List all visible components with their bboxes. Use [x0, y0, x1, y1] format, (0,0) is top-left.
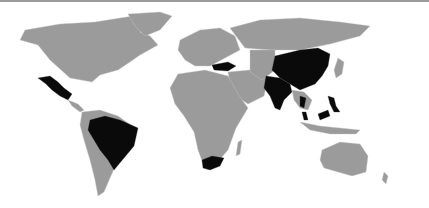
world-map [0, 0, 429, 208]
land-europe [178, 28, 240, 66]
land-russia [230, 18, 370, 50]
land-japan [334, 58, 344, 78]
land-new-zealand [382, 172, 388, 184]
country-philippines[interactable] [328, 96, 340, 112]
country-turkey[interactable] [212, 62, 236, 71]
land-indonesia [300, 122, 360, 134]
land-australia [320, 142, 368, 176]
land-madagascar [236, 140, 242, 156]
land-central-america [68, 100, 84, 112]
country-malaysia[interactable] [302, 110, 330, 120]
country-mexico[interactable] [38, 76, 72, 100]
